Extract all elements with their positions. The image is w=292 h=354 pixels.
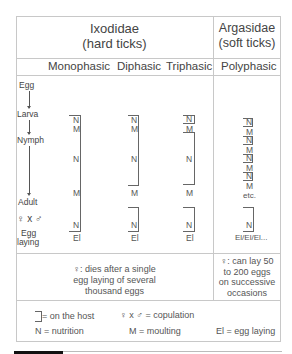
stage-nymph: Nymph [17, 135, 44, 145]
label-moulting: M [246, 181, 253, 191]
label-nutrition: N [73, 154, 79, 164]
note-line: occasions [213, 288, 281, 299]
label-moulting: M [131, 124, 138, 134]
divider [16, 253, 281, 254]
column-triphasic: Triphasic [166, 60, 212, 72]
family-name: Ixodidae [16, 21, 213, 36]
label-nutrition: N [186, 220, 192, 230]
label-etc: etc. [243, 191, 256, 200]
caption-rule [63, 351, 282, 352]
note-line: ♀: dies after a single [16, 264, 213, 275]
stage-egg-laying-2: laying [17, 237, 39, 247]
label-nutrition: N [246, 135, 252, 145]
label-moulting: M [131, 188, 138, 198]
legend-copulation: ♀ x ♂ = copulation [120, 310, 194, 320]
column-monophasic: Monophasic [48, 60, 110, 72]
host-bracket-icon [35, 311, 42, 322]
label-egg-laying: El [186, 233, 194, 243]
label-nutrition: N [186, 114, 192, 124]
note-line: to 200 eggs [213, 267, 281, 278]
ixodidae-note: ♀: dies after a single egg laying of sev… [16, 264, 213, 297]
stage-adult: Adult [18, 197, 37, 207]
label-egg-laying: El [73, 233, 81, 243]
label-nutrition: N [246, 153, 252, 163]
stage-egg: Egg [19, 80, 34, 90]
stage-copulation: ♀ x ♂ [17, 213, 43, 224]
divider [16, 58, 281, 59]
label-nutrition: N [246, 117, 252, 127]
arrow-line [29, 146, 30, 194]
label-nutrition: N [186, 154, 192, 164]
legend-nutrition: N = nutrition [35, 326, 84, 336]
argasidae-header: Argasidae (soft ticks) [213, 21, 281, 51]
column-diphasic: Diphasic [117, 60, 161, 72]
note-line: thousand eggs [16, 286, 213, 297]
family-name: Argasidae [213, 21, 281, 36]
label-nutrition: N [246, 171, 252, 181]
arrow-down-icon [27, 193, 31, 196]
argasidae-note: ♀: can lay 50 to 200 eggs on successive … [213, 256, 281, 298]
label-nutrition: N [73, 220, 79, 230]
label-egg-laying: El [131, 233, 139, 243]
label-nutrition: N [246, 220, 252, 230]
label-nutrition: N [131, 154, 137, 164]
note-line: egg laying of several [16, 275, 213, 286]
label-moulting: M [73, 188, 80, 198]
note-line: on successive [213, 277, 281, 288]
stage-larva: Larva [17, 109, 38, 119]
family-common-name: (hard ticks) [16, 36, 213, 51]
column-polyphasic: Polyphasic [221, 60, 277, 72]
note-line: ♀: can lay 50 [213, 256, 281, 267]
legend-egg-laying: El = egg laying [216, 326, 275, 336]
label-egg-laying: El/El/El... [235, 233, 267, 242]
divider [16, 300, 281, 301]
label-nutrition: N [131, 220, 137, 230]
divider [16, 75, 281, 76]
label-moulting: M [186, 188, 193, 198]
family-common-name: (soft ticks) [213, 36, 281, 51]
legend-host: = on the host [42, 311, 94, 321]
ixodidae-header: Ixodidae (hard ticks) [16, 21, 213, 51]
legend-moulting: M = moulting [129, 326, 181, 336]
label-moulting: M [73, 124, 80, 134]
